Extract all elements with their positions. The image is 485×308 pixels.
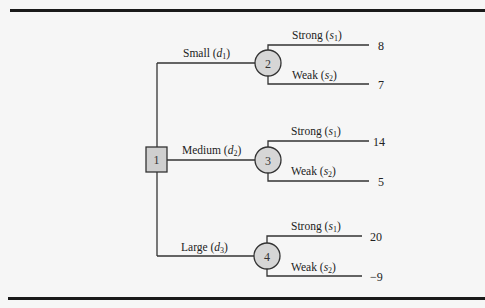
decision-node-1-label: 1: [154, 153, 160, 167]
decision-label-medium: Medium (d2): [182, 144, 241, 158]
payoff-3-weak: 5: [378, 175, 384, 189]
outcome-4-weak-label: Weak (s2): [291, 261, 336, 275]
payoff-4-strong: 20: [370, 230, 382, 244]
outcome-2-weak-label: Weak (s2): [292, 69, 337, 83]
outcome-2-strong-line: [268, 45, 369, 50]
chance-node-3-label: 3: [265, 154, 271, 168]
outcome-3-strong-label: Strong (s1): [291, 125, 341, 139]
payoff-2-strong: 8: [378, 39, 384, 53]
outcome-4-strong-label: Strong (s1): [291, 220, 341, 234]
payoff-4-weak: −9: [370, 270, 383, 284]
decision-tree: 1 2 3 4 Small (d1) Medium (d2) Large (d3…: [0, 0, 485, 308]
chance-node-4-label: 4: [264, 250, 270, 264]
outcome-3-strong-line: [268, 141, 369, 147]
outcome-4-strong-line: [267, 236, 362, 243]
decision-label-small: Small (d1): [183, 47, 230, 61]
outcome-3-weak-label: Weak (s2): [291, 165, 336, 179]
chance-node-2-label: 2: [265, 57, 271, 71]
decision-label-large: Large (d3): [181, 241, 228, 255]
outcome-2-strong-label: Strong (s1): [292, 29, 342, 43]
payoff-3-strong: 14: [373, 135, 385, 149]
payoff-2-weak: 7: [378, 78, 384, 92]
